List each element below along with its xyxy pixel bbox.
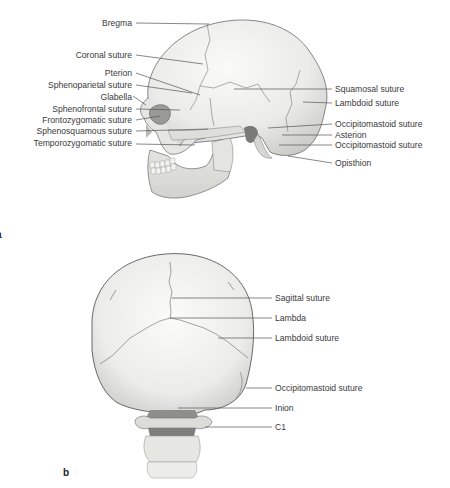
label-sphenofrontal-suture: Sphenofrontal suture [52,104,132,114]
label-c1: C1 [275,422,286,432]
posterior-skull-illustration [92,254,254,478]
label-asterion: Asterion [335,130,367,140]
label-occipitomastoid-suture-a2: Occipitomastoid suture [335,140,422,150]
panel-b-marker: b [63,467,69,478]
label-opisthion: Opisthion [335,158,371,168]
label-sagittal-suture: Sagittal suture [275,293,330,303]
label-squamosal-suture: Squamosal suture [335,84,404,94]
label-occipitomastoid-suture-b: Occipitomastoid suture [275,383,362,393]
label-occipitomastoid-suture-a1: Occipitomastoid suture [335,119,422,129]
label-lambdoid-suture-a: Lambdoid suture [335,98,399,108]
label-bregma: Bregma [102,18,132,28]
label-pterion: Pterion [105,68,132,78]
label-inion: Inion [275,403,294,413]
label-lambdoid-suture-b: Lambdoid suture [275,333,339,343]
figure-artwork [0,0,450,488]
panel-a-marker: a [0,229,2,240]
lateral-skull-illustration [141,20,327,198]
label-sphenosquamous-suture: Sphenosquamous suture [36,126,132,136]
skull-suture-figure: Bregma Coronal suture Pterion Sphenopari… [0,0,450,488]
label-glabella: Glabella [100,92,132,102]
label-temporozygomatic-suture: Temporozygomatic suture [34,138,132,148]
label-frontozygomatic-suture: Frontozygomatic suture [42,115,132,125]
label-lambda: Lambda [275,313,306,323]
label-coronal-suture: Coronal suture [76,50,132,60]
label-sphenoparietal-suture: Sphenoparietal suture [48,80,132,90]
